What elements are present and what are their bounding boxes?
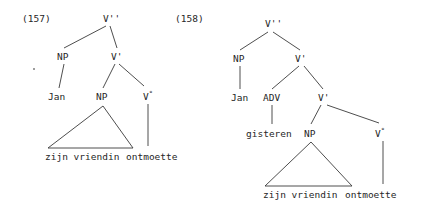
tree-branch-158-7 [327, 105, 379, 123]
tree-edges-158 [240, 32, 383, 184]
node-158-adv: ADV [263, 93, 280, 103]
tree-branch-157-3 [103, 64, 115, 88]
node-157-np_subj: NP [57, 52, 68, 62]
node-157-vzero: V° [143, 92, 153, 102]
constituent-triangles [48, 106, 352, 186]
node-158-vmax: V'' [265, 19, 282, 29]
tree-branch-157-4 [119, 64, 144, 86]
node-158-vzero: V° [375, 129, 385, 139]
terminal-157-t_zijn_vriendin: zijn vriendin [45, 152, 119, 162]
scan-speck [33, 68, 35, 70]
tree-branch-158-4 [304, 66, 323, 89]
terminal-157-t_ontmoette: ontmoette [126, 152, 177, 162]
node-158-vbar_inner: V' [318, 93, 329, 103]
tree-branch-158-1 [273, 32, 300, 50]
example-number-157: (157) [22, 14, 51, 24]
constituent-triangle-157 [48, 106, 133, 148]
node-157-jan: Jan [48, 92, 65, 102]
degree-mark-icon: ° [381, 127, 385, 135]
node-158-np_obj: NP [304, 129, 315, 139]
constituent-triangle-158 [265, 142, 352, 186]
terminal-158-t_zijn_vriendin: zijn vriendin [263, 190, 337, 200]
tree-branch-158-3 [272, 66, 299, 89]
node-157-np_obj: NP [96, 92, 107, 102]
terminal-158-t_ontmoette: ontmoette [345, 190, 396, 200]
tree-branch-157-2 [59, 64, 64, 88]
tree-branch-158-0 [240, 32, 268, 50]
tree-lines-layer [0, 0, 436, 212]
figure-root: (157) (158) V''NPV'JanNPV°zijn vriendino… [0, 0, 436, 212]
tree-branch-157-1 [110, 26, 117, 48]
degree-mark-icon: ° [149, 90, 153, 98]
node-158-vbar_outer: V' [295, 54, 306, 64]
node-157-vmax: V'' [103, 14, 120, 24]
example-number-158: (158) [175, 14, 204, 24]
tree-branch-157-0 [64, 26, 106, 48]
node-158-gisteren: gisteren [246, 129, 292, 139]
node-158-jan: Jan [231, 93, 248, 103]
tree-branch-158-6 [311, 105, 321, 124]
tree-edges-157 [59, 26, 148, 146]
node-157-vbar: V' [111, 52, 122, 62]
node-158-np_subj: NP [233, 54, 244, 64]
